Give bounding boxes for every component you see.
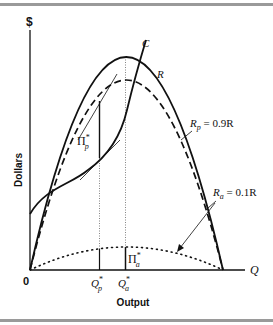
agent-revenue-curve — [30, 247, 223, 270]
principal-revenue-label: Rp = 0.9R — [189, 117, 234, 132]
agent-arrow-line — [180, 203, 215, 248]
q-agent-label: Q*a — [118, 275, 130, 293]
origin-label: 0 — [23, 275, 29, 287]
bottom-border — [0, 319, 273, 322]
revenue-tangent-line — [78, 74, 117, 140]
revenue-curve-label: R — [156, 68, 164, 80]
x-axis-label: Output — [117, 297, 150, 308]
agent-arrow-head — [177, 244, 184, 252]
cost-curve — [30, 40, 146, 214]
principal-profit-label: Π*p — [77, 133, 90, 151]
agent-revenue-label: Ra = 0.1R — [212, 186, 257, 201]
q-principal-label: Q*p — [91, 275, 103, 293]
diagram-canvas: $ Dollars Q 0 Output C R Rp = 0.9R Ra = … — [0, 0, 273, 325]
x-axis-symbol: Q — [250, 263, 259, 277]
cost-curve-label: C — [142, 37, 150, 49]
y-axis-label: Dollars — [13, 153, 24, 187]
revenue-curve — [30, 57, 223, 270]
agent-profit-label: Π*a — [128, 251, 141, 269]
y-axis-symbol: $ — [26, 15, 33, 29]
